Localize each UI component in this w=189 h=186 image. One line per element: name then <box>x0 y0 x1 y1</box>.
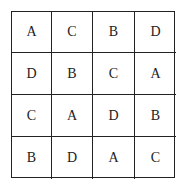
grid-cell: B <box>12 137 52 179</box>
grid-cell: B <box>93 12 135 53</box>
grid-cell: C <box>52 12 93 53</box>
grid-cell: A <box>93 137 135 179</box>
grid-cell: A <box>135 53 176 95</box>
grid-cell: A <box>12 12 52 53</box>
grid-cell: C <box>135 137 176 179</box>
latin-square-grid: A C B D D B C A C A D B B D A C <box>11 11 175 178</box>
grid-cell: C <box>93 53 135 95</box>
grid-cell: B <box>135 95 176 137</box>
grid-cell: D <box>52 137 93 179</box>
grid-cell: B <box>52 53 93 95</box>
grid-cell: D <box>93 95 135 137</box>
grid-cell: D <box>135 12 176 53</box>
grid-cell: A <box>52 95 93 137</box>
grid-cell: D <box>12 53 52 95</box>
grid-cell: C <box>12 95 52 137</box>
